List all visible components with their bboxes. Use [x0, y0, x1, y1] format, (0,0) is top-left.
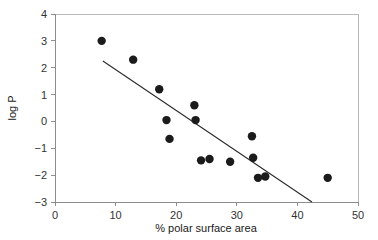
data-point: [162, 116, 170, 124]
y-tick-label: 2: [41, 62, 47, 74]
data-point: [261, 172, 269, 180]
y-tick-marks: [51, 14, 55, 202]
data-point-series: [97, 37, 331, 182]
x-axis: 01020304050: [52, 202, 364, 221]
x-axis-title: % polar surface area: [155, 222, 257, 234]
y-tick-labels: −3−2−101234: [34, 8, 47, 208]
y-tick-label: −1: [34, 142, 47, 154]
data-point: [248, 132, 256, 140]
data-point: [191, 116, 199, 124]
data-point: [97, 37, 105, 45]
trend-line-group: [103, 61, 312, 202]
data-point: [165, 135, 173, 143]
x-tick-label: 50: [352, 209, 364, 221]
x-tick-marks: [55, 202, 358, 206]
data-point: [190, 101, 198, 109]
x-tick-label: 10: [109, 209, 121, 221]
data-point: [197, 156, 205, 164]
y-tick-label: 1: [41, 89, 47, 101]
y-tick-label: 3: [41, 35, 47, 47]
x-tick-label: 0: [52, 209, 58, 221]
y-tick-label: −3: [34, 196, 47, 208]
scatter-chart: −3−2−101234 01020304050 % polar surface …: [0, 0, 378, 240]
chart-canvas: −3−2−101234 01020304050 % polar surface …: [0, 0, 378, 240]
x-tick-label: 20: [170, 209, 182, 221]
regression-line: [103, 61, 312, 202]
data-point: [205, 155, 213, 163]
y-tick-label: 4: [41, 8, 47, 20]
x-tick-label: 30: [231, 209, 243, 221]
data-point: [226, 158, 234, 166]
data-point: [254, 174, 262, 182]
data-point: [155, 85, 163, 93]
x-tick-label: 40: [291, 209, 303, 221]
data-point: [249, 153, 257, 161]
y-axis-title: log P: [6, 95, 18, 120]
x-tick-labels: 01020304050: [52, 209, 364, 221]
y-axis: −3−2−101234: [34, 8, 55, 208]
y-tick-label: 0: [41, 115, 47, 127]
data-point: [129, 55, 137, 63]
data-point: [324, 174, 332, 182]
y-tick-label: −2: [34, 169, 47, 181]
